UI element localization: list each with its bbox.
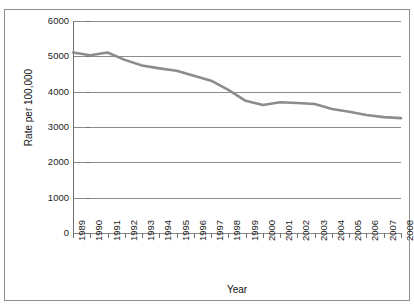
series-line-rate-per-100000 [73, 52, 401, 118]
x-axis-label: Year [73, 284, 401, 295]
y-axis-label-host: Rate per 100,000 [12, 20, 32, 220]
x-tick-mark-2008 [401, 233, 402, 238]
y-axis-label: Rate per 100,000 [23, 28, 34, 188]
y-tick-label-0: 0 [23, 228, 69, 238]
x-tick-label-2008: 2008 [405, 220, 414, 241]
series-layer [73, 21, 401, 234]
chart-figure: 0100020003000400050006000 Rate per 100,0… [0, 0, 414, 307]
